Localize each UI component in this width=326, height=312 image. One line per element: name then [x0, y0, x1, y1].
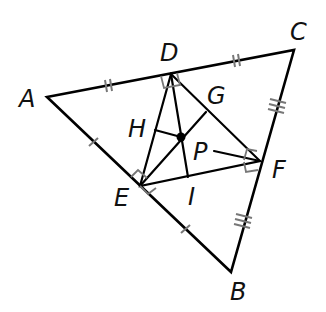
label-p: P [193, 138, 208, 166]
tick-cf [268, 99, 286, 113]
label-b: B [230, 278, 246, 306]
segment-pf [214, 151, 260, 161]
label-c: C [290, 18, 307, 46]
label-a: A [17, 85, 35, 113]
label-h: H [128, 115, 146, 143]
point-p [177, 133, 186, 142]
tick-fb [234, 214, 252, 228]
label-i: I [188, 183, 195, 211]
label-d: D [160, 39, 178, 67]
label-f: F [272, 156, 287, 184]
label-e: E [114, 184, 130, 212]
label-g: G [207, 82, 226, 110]
geometry-diagram: A B C D E F G H I P [0, 0, 326, 312]
